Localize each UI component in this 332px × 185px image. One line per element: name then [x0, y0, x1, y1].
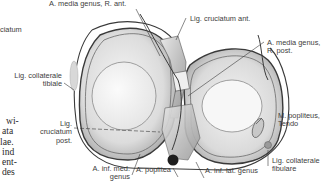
- lig-collaterale-fibulare-shape: [265, 142, 272, 149]
- label-line: R. post.: [267, 47, 320, 55]
- lig-collaterale-tibiale-shape: [70, 61, 78, 91]
- label-line: tibiale: [2, 80, 62, 88]
- label-line: Tendo: [278, 120, 320, 128]
- label-line: genus: [72, 173, 130, 181]
- label-m-popliteus-tendo: M. popliteus, Tendo: [278, 112, 320, 129]
- text-line: des: [2, 167, 19, 177]
- label-a-inf-med-genus: A. inf. med. genus: [72, 165, 130, 182]
- medial-meniscus: [79, 28, 176, 160]
- label-a-media-genus-r-ant: A. media genus, R. ant.: [49, 0, 126, 8]
- label-line: post.: [30, 137, 72, 145]
- label-a-media-genus-r-post: A. media genus, R. post.: [267, 39, 320, 56]
- label-a-inf-lat-genus: A. inf. lat. genus: [205, 167, 258, 175]
- label-lig-cruciatum-post: Lig. cruciatum post.: [30, 120, 72, 145]
- label-lig-collaterale-fibulare: Lig. collaterale fibulare: [272, 157, 320, 174]
- body-text-fragment: wi- ata lae. ind ent- des: [0, 116, 19, 178]
- label-line: fibulare: [272, 165, 320, 173]
- label-lig-cruciatum-ant: Lig. cruciatum ant.: [190, 15, 250, 23]
- label-cut-off-ciatum: ciatum: [0, 26, 22, 34]
- label-a-poplitea: A. poplitea: [136, 166, 171, 174]
- label-lig-collaterale-tibiale: Lig. collaterale tibiale: [2, 72, 62, 89]
- a-poplitea-vessel: [168, 155, 179, 166]
